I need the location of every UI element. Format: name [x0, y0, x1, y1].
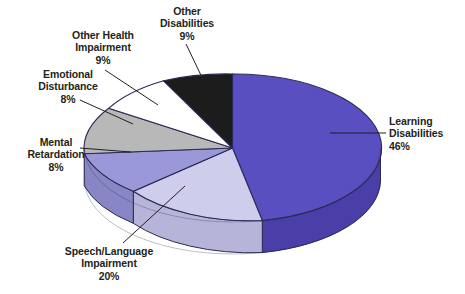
pie-label-other-health-impairment-value: 9%	[55, 54, 151, 66]
pie-label-learning-disabilities-value: 46%	[389, 140, 463, 152]
pie-label-speech-language-impairment-line2: Impairment	[46, 257, 172, 269]
pie-label-other-disabilities-line2: Disabilities	[143, 17, 231, 29]
pie-label-emotional-disturbance-line1: Emotional	[22, 68, 114, 80]
pie-label-other-health-impairment: Other Health Impairment 9%	[55, 29, 151, 66]
pie-label-other-disabilities: Other Disabilities 9%	[143, 5, 231, 42]
pie-label-mental-retardation-value: 8%	[10, 161, 102, 173]
pie-label-learning-disabilities-line1: Learning	[389, 115, 463, 127]
pie-label-mental-retardation-line1: Mental	[10, 136, 102, 148]
pie-label-emotional-disturbance: Emotional Disturbance 8%	[22, 68, 114, 105]
pie-label-speech-language-impairment: Speech/Language Impairment 20%	[46, 245, 172, 282]
pie-3d-body	[84, 74, 382, 254]
pie-label-other-disabilities-value: 9%	[143, 30, 231, 42]
pie-label-other-disabilities-line1: Other	[143, 5, 231, 17]
pie-label-learning-disabilities-line2: Disabilities	[389, 127, 463, 139]
pie-label-mental-retardation-line2: Retardation	[10, 148, 102, 160]
pie-label-speech-language-impairment-line1: Speech/Language	[46, 245, 172, 257]
pie-label-other-health-impairment-line1: Other Health	[55, 29, 151, 41]
pie-label-emotional-disturbance-line2: Disturbance	[22, 80, 114, 92]
pie-label-speech-language-impairment-value: 20%	[46, 270, 172, 282]
pie-label-emotional-disturbance-value: 8%	[22, 93, 114, 105]
pie-label-mental-retardation: Mental Retardation 8%	[10, 136, 102, 173]
pie-label-other-health-impairment-line2: Impairment	[55, 41, 151, 53]
pie-label-learning-disabilities: Learning Disabilities 46%	[389, 115, 463, 152]
pie-chart-figure: Other Disabilities 9% Other Health Impai…	[0, 0, 465, 294]
